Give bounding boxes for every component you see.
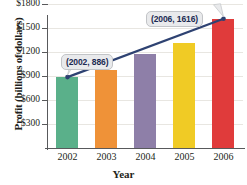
x-axis-title: Year: [0, 168, 247, 180]
x-tick-label-2006: 2006: [202, 151, 246, 162]
y-tick-label: $600: [0, 94, 40, 104]
y-tick-label: $1500: [0, 22, 40, 32]
y-tick-label: $900: [0, 70, 40, 80]
bar-2005: [173, 43, 195, 148]
bar-2003: [95, 70, 117, 148]
bar-2006: [212, 19, 234, 148]
x-tick-label-2004: 2004: [124, 151, 168, 162]
x-axis-line: [45, 148, 245, 149]
x-tick-label-2003: 2003: [85, 151, 129, 162]
y-tick-mark: [42, 4, 48, 5]
bar-2004: [134, 54, 156, 148]
y-tick-label: $300: [0, 118, 40, 128]
x-tick-label-2002: 2002: [46, 151, 90, 162]
bar-series: [47, 17, 243, 148]
profit-bar-chart: Profit (billions of dollars) Year $300$6…: [0, 0, 247, 185]
annotation-2002: (2002, 886): [61, 54, 113, 70]
gridline: [48, 4, 243, 5]
x-tick-label-2005: 2005: [163, 151, 207, 162]
y-tick-label: $1800: [0, 0, 40, 8]
annotation-2006: (2006, 1616): [146, 11, 203, 27]
bar-2002: [56, 77, 78, 148]
y-tick-label: $1200: [0, 46, 40, 56]
